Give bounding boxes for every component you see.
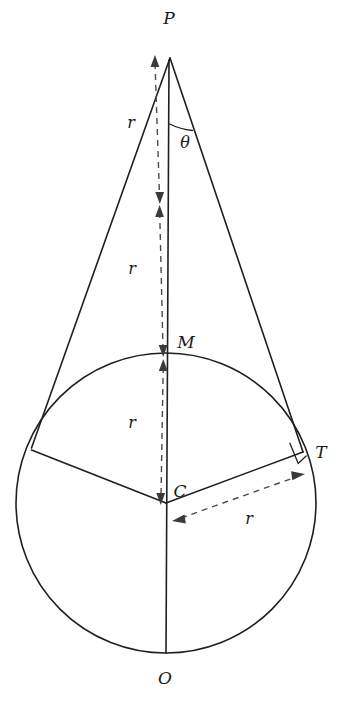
theta-angle-arc: [170, 124, 193, 131]
arrowhead-up-middle: [155, 205, 164, 217]
r-label-top: r: [127, 113, 136, 132]
arrowhead-down-middle: [159, 345, 168, 357]
radius-left: [32, 450, 167, 503]
point-label-c: C: [173, 481, 186, 501]
arrowhead-right-radial: [291, 471, 305, 480]
tangent-line-right: [170, 58, 303, 452]
r-label-middle: r: [128, 259, 137, 278]
dashed-measure-middle: [160, 212, 163, 349]
theta-label: θ: [180, 133, 190, 152]
point-label-m: M: [176, 332, 195, 352]
tangent-line-left: [32, 58, 171, 448]
vertical-axis-line: [166, 60, 169, 653]
arrowhead-up-lower: [159, 359, 168, 371]
point-label-p: P: [162, 8, 175, 28]
diagram-canvas: P M C T O θ r r r r: [0, 0, 354, 717]
arrowhead-down-top: [155, 192, 164, 204]
geometry-figure: P M C T O θ r r r r: [0, 0, 354, 717]
r-label-lower: r: [128, 413, 137, 432]
dashed-measure-radial: [181, 477, 296, 518]
r-label-radial: r: [245, 509, 254, 528]
point-label-o: O: [158, 668, 172, 688]
dashed-measure-top: [155, 63, 160, 196]
arrowhead-up-top: [151, 55, 160, 67]
arrowhead-left-radial: [172, 515, 186, 524]
radius-right: [166, 452, 303, 503]
point-label-t: T: [315, 442, 328, 462]
dashed-measure-lower: [161, 367, 163, 496]
